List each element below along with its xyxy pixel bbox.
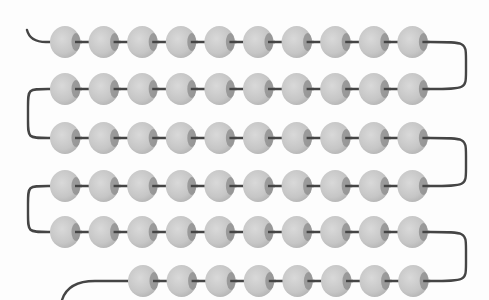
bead [243, 122, 275, 154]
bead [166, 170, 198, 202]
bead [127, 170, 159, 202]
bead [128, 265, 160, 297]
bead [359, 26, 391, 58]
bead [204, 26, 236, 58]
bead [321, 265, 353, 297]
bead [166, 122, 198, 154]
bead [167, 265, 199, 297]
bead [243, 73, 275, 105]
bead [244, 265, 276, 297]
bead [359, 122, 391, 154]
bead [205, 265, 237, 297]
bead [204, 170, 236, 202]
bead [282, 216, 314, 248]
bead [397, 170, 429, 202]
bead [50, 216, 82, 248]
bead [50, 122, 82, 154]
bead [166, 26, 198, 58]
bead [320, 122, 352, 154]
bead-diagram [0, 0, 489, 300]
bead [204, 73, 236, 105]
bead [359, 170, 391, 202]
bead [243, 170, 275, 202]
bead [397, 26, 429, 58]
bead [89, 170, 121, 202]
bead [397, 216, 429, 248]
bead [89, 122, 121, 154]
bead [243, 216, 275, 248]
beads [50, 26, 430, 297]
bead [282, 73, 314, 105]
bead-string-figure: Beads threaded on a single string, arran… [0, 0, 489, 300]
bead [398, 265, 430, 297]
bead [282, 122, 314, 154]
bead [320, 26, 352, 58]
bead [127, 216, 159, 248]
bead [127, 26, 159, 58]
bead [89, 73, 121, 105]
bead [127, 122, 159, 154]
bead [127, 73, 159, 105]
bead [359, 216, 391, 248]
bead [320, 216, 352, 248]
string-path [27, 30, 466, 300]
bead [282, 170, 314, 202]
bead [89, 26, 121, 58]
bead [50, 170, 82, 202]
string [27, 30, 466, 300]
bead [204, 216, 236, 248]
bead [359, 73, 391, 105]
bead [50, 73, 82, 105]
bead [360, 265, 392, 297]
bead [204, 122, 236, 154]
bead [50, 26, 82, 58]
bead [397, 73, 429, 105]
bead [166, 216, 198, 248]
bead [243, 26, 275, 58]
bead [397, 122, 429, 154]
bead [89, 216, 121, 248]
bead [282, 26, 314, 58]
bead [282, 265, 314, 297]
bead [166, 73, 198, 105]
bead [320, 73, 352, 105]
bead [320, 170, 352, 202]
